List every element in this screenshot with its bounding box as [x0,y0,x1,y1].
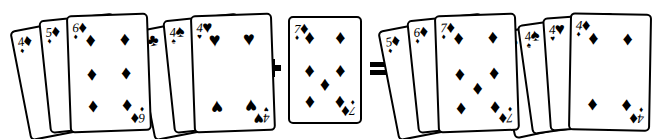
diamond-suit-icon: ♦ [415,37,420,44]
spade-pip-icon: ♠ [530,28,541,43]
card-index-top-left: 5♦♦ [45,24,62,44]
card-index-bottom-right: 4♦♦ [629,106,644,125]
card-index-bottom-right: 7♦♦ [498,106,513,126]
diamond-pip-icon: ♦ [587,96,598,116]
spade-pip-icon: ♠ [175,24,185,39]
diamond-pip-icon: ♦ [304,27,314,47]
diamond-pip-icon: ♦ [22,33,33,48]
diamond-suit-icon: ♦ [351,99,355,106]
diamond-pip-icon: ♦ [86,63,97,83]
heart-pip-icon: ♥ [253,111,264,125]
card-index-bottom-right: 4♥♥ [253,106,270,126]
index-stack: 6♦ [139,106,146,125]
diamond-suit-icon: ♦ [47,37,52,44]
diamond-pip-icon: ♦ [487,26,498,46]
index-stack: 7♦ [507,106,514,125]
diamond-pip-icon: ♦ [121,62,132,82]
playing-card-7-diamond[interactable]: 7♦♦♦♦♦♦♦♦♦7♦♦ [434,13,520,134]
diamond-pip-icon: ♦ [341,104,350,118]
diamond-pip-icon: ♦ [304,60,314,80]
diamond-pip-icon: ♦ [119,28,130,48]
heart-pip-icon: ♥ [243,28,256,48]
diamond-pip-icon: ♦ [454,63,465,83]
card-index-top-left: 6♦♦ [413,24,430,44]
diamond-pip-icon: ♦ [453,27,464,47]
spade-suit-icon: ♠ [171,37,176,44]
playing-card-4-diamond[interactable]: 4♦♦♦♦♦♦4♦♦ [568,12,652,131]
index-stack: 4♦ [638,107,644,126]
diamond-pip-icon: ♦ [588,27,599,47]
heart-pip-icon: ♥ [555,22,566,37]
diamond-pip-icon: ♦ [88,98,99,118]
diamond-pip-icon: ♦ [335,60,345,80]
diamond-pip-icon: ♦ [85,29,96,49]
diamond-pip-icon: ♦ [472,80,483,100]
diamond-pip-icon: ♦ [320,76,330,96]
diamond-pip-icon: ♦ [499,111,508,125]
diamond-suit-icon: ♦ [639,107,643,114]
diamond-pip-icon: ♦ [489,62,500,82]
index-stack: 4♥ [263,106,270,125]
diamond-pip-icon: ♦ [456,100,467,120]
diamond-suit-icon: ♦ [508,106,512,113]
diamond-pip-icon: ♦ [390,33,401,48]
diamond-pip-icon: ♦ [304,93,314,113]
card-index-top-left: 4♠♠ [169,24,186,44]
heart-suit-icon: ♥ [550,35,555,42]
playing-card-7-diamond[interactable]: 7♦♦♦♦♦♦♦♦♦7♦♦ [288,16,362,124]
diamond-pip-icon: ♦ [419,24,429,39]
playing-card-4-heart[interactable]: 4♥♥♥♥♥♥4♥♥ [190,13,276,134]
card-index-top-left: 4♦♦ [16,33,34,54]
diamond-pip-icon: ♦ [51,24,61,39]
card-index-bottom-right: 6♦♦ [130,106,145,126]
diamond-pip-icon: ♦ [131,111,140,125]
diamond-pip-icon: ♦ [629,111,638,125]
diamond-suit-icon: ♦ [140,106,144,113]
heart-pip-icon: ♥ [211,98,224,118]
card-index-top-left: 5♦♦ [384,33,402,54]
diamond-pip-icon: ♦ [622,28,633,48]
diamond-pip-icon: ♦ [335,27,345,47]
card-index-bottom-right: 7♦♦ [341,99,356,118]
heart-pip-icon: ♥ [208,29,221,49]
heart-suit-icon: ♥ [264,106,269,113]
card-index-top-left: 4♠♠ [524,28,542,49]
playing-card-6-diamond[interactable]: 6♦♦♦♦♦♦♦♦6♦♦ [66,13,152,134]
card-equation-illustration: 4♦♦5♦♦6♦♦♦♦♦♦♦♦6♦♦4♣♣4♠♠4♥♥♥♥♥♥4♥♥7♦♦♦♦♦… [0,0,652,139]
index-stack: 7♦ [350,99,356,118]
card-index-top-left: 4♥♥ [549,22,566,42]
